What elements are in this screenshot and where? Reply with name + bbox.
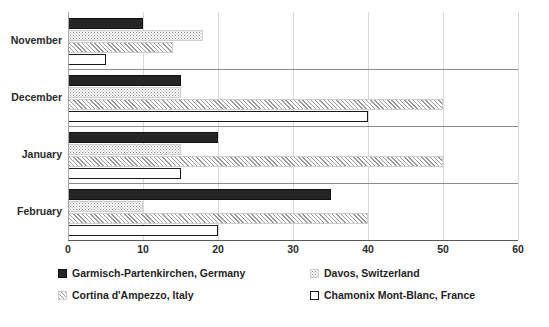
x-axis-line (68, 240, 518, 241)
bar-cortina-january[interactable] (68, 156, 443, 167)
legend-label-garmisch: Garmisch-Partenkirchen, Germany (72, 267, 245, 279)
x-tick-40: 40 (348, 243, 388, 255)
legend-item-cortina[interactable]: Cortina d'Ampezzo, Italy (58, 289, 194, 301)
legend-swatch-cortina-icon (58, 291, 67, 300)
y-category-december: December (0, 91, 62, 103)
bar-group-january (68, 126, 518, 183)
bar-davos-january[interactable] (68, 144, 181, 155)
bar-garmisch-january[interactable] (68, 132, 218, 143)
bar-garmisch-february[interactable] (68, 189, 331, 200)
bar-cortina-december[interactable] (68, 99, 443, 110)
bar-chamonix-january[interactable] (68, 168, 181, 179)
bar-cortina-november[interactable] (68, 42, 173, 53)
legend-label-davos: Davos, Switzerland (324, 267, 420, 279)
legend-swatch-garmisch-icon (58, 269, 67, 278)
plot-area (68, 12, 518, 240)
bar-davos-november[interactable] (68, 30, 203, 41)
gridline-60 (518, 12, 519, 240)
bar-group-february (68, 183, 518, 240)
y-category-november: November (0, 34, 62, 46)
legend-swatch-davos-icon (310, 269, 319, 278)
bar-chamonix-february[interactable] (68, 225, 218, 236)
bar-davos-december[interactable] (68, 87, 181, 98)
x-tick-50: 50 (423, 243, 463, 255)
legend-label-cortina: Cortina d'Ampezzo, Italy (72, 289, 194, 301)
x-tick-10: 10 (123, 243, 163, 255)
x-tick-0: 0 (48, 243, 88, 255)
x-tick-30: 30 (273, 243, 313, 255)
x-tick-20: 20 (198, 243, 238, 255)
bar-garmisch-november[interactable] (68, 18, 143, 29)
bar-cortina-february[interactable] (68, 213, 368, 224)
legend-swatch-chamonix-icon (310, 291, 319, 300)
bar-chart: 0 10 20 30 40 50 60 November December Ja… (0, 0, 549, 327)
legend-label-chamonix: Chamonix Mont-Blanc, France (324, 289, 475, 301)
bar-group-november (68, 12, 518, 69)
bar-davos-february[interactable] (68, 201, 143, 212)
bar-chamonix-november[interactable] (68, 54, 106, 65)
legend-item-davos[interactable]: Davos, Switzerland (310, 267, 420, 279)
chart-legend: Garmisch-Partenkirchen, Germany Davos, S… (58, 265, 528, 317)
bar-chamonix-december[interactable] (68, 111, 368, 122)
y-category-february: February (0, 205, 62, 217)
y-category-january: January (0, 148, 62, 160)
x-tick-60: 60 (498, 243, 538, 255)
legend-item-chamonix[interactable]: Chamonix Mont-Blanc, France (310, 289, 475, 301)
bar-garmisch-december[interactable] (68, 75, 181, 86)
bar-group-december (68, 69, 518, 126)
legend-item-garmisch[interactable]: Garmisch-Partenkirchen, Germany (58, 267, 245, 279)
y-axis-line (68, 12, 69, 241)
